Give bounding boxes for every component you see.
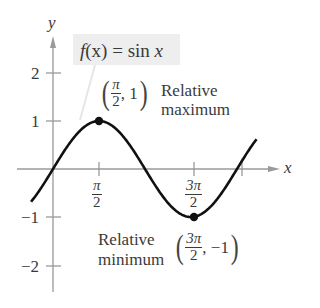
min-annotation-line1: Relative bbox=[98, 231, 155, 248]
min-point-label: (3π2, −1) bbox=[174, 230, 240, 264]
x-axis-label: x bbox=[284, 159, 292, 176]
label-pointer bbox=[80, 65, 95, 120]
y-tick-label-2: 2 bbox=[31, 65, 40, 82]
y-tick-label-neg2: −2 bbox=[21, 258, 39, 275]
relative-minimum-point bbox=[190, 213, 198, 221]
min-annotation-line2: minimum bbox=[98, 251, 164, 268]
x-tick-label-3pi-over-2: 3π2 bbox=[185, 178, 202, 211]
max-annotation-line2: maximum bbox=[161, 101, 230, 118]
y-tick-label-neg1: −1 bbox=[21, 209, 39, 226]
x-tick-label-pi-over-2: π2 bbox=[92, 178, 102, 211]
y-tick-label-1: 1 bbox=[31, 113, 40, 130]
relative-maximum-point bbox=[95, 117, 103, 125]
max-point-label: (π2, 1) bbox=[100, 76, 149, 110]
x-axis-arrow-icon bbox=[268, 166, 280, 172]
function-label: f(x) = sin x bbox=[80, 41, 163, 60]
max-annotation-line1: Relative bbox=[161, 82, 218, 99]
y-axis-label: y bbox=[48, 14, 56, 31]
y-axis-arrow-icon bbox=[50, 36, 56, 48]
